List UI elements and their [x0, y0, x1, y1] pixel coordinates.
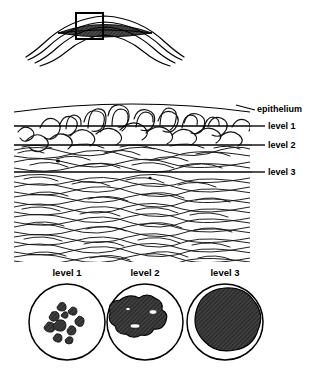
- deep-curve: [40, 35, 170, 66]
- cross-section-circle-1: [29, 284, 105, 360]
- nerve-bundle-cross-sections: [29, 284, 263, 360]
- nerve-mass-level-3: [195, 288, 261, 351]
- label-level-3: level 3: [268, 167, 296, 177]
- cross-section-level-3[interactable]: [187, 284, 263, 360]
- diagram-svg: [0, 0, 324, 370]
- deep-lamellar-fibers: [14, 174, 252, 265]
- nerve-nodes: [56, 159, 152, 179]
- epithelium-curve: [14, 104, 250, 112]
- label-epithelium: epithelium: [257, 104, 302, 114]
- stroma-section: [14, 104, 265, 266]
- cross-section-label-2: level 2: [119, 267, 171, 278]
- cross-section-label-3: level 3: [199, 267, 251, 278]
- stromal-band-shape-lower: [58, 30, 152, 37]
- mid-stroma-fibers: [14, 144, 250, 172]
- label-level-1: level 1: [268, 121, 296, 131]
- epithelium-leader-line: [236, 105, 255, 110]
- cross-section-level-2[interactable]: [107, 284, 183, 360]
- figure-canvas: epithelium level 1 level 2 level 3 level…: [0, 0, 324, 370]
- cross-section-label-1: level 1: [41, 267, 93, 278]
- label-level-2: level 2: [268, 140, 296, 150]
- corneal-profile-overview: [26, 13, 184, 66]
- cross-section-level-1[interactable]: [29, 284, 105, 360]
